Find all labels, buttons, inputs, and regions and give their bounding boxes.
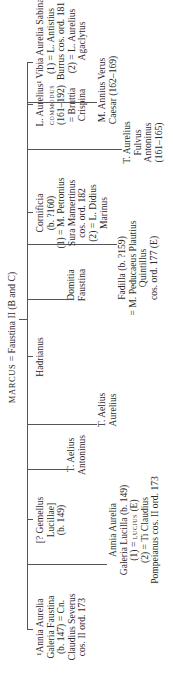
branch-line bbox=[27, 564, 107, 565]
child-gemellus: [? Gemellus Lucillae] (b. 149) bbox=[35, 490, 67, 550]
child-annia-faustina: ¹Annia Aurelia Galeria Faustina (b. 147)… bbox=[35, 592, 88, 662]
text-line: Antoninus bbox=[77, 430, 88, 480]
text-line: (2) = L. Didius bbox=[88, 173, 99, 253]
child-aelius-antoninus: T. Aelius Antoninus bbox=[66, 430, 87, 480]
text-line: T. Aurelius bbox=[122, 115, 133, 170]
child-cornificia: Cornificia (b. ?160) (1) = M. Petronius … bbox=[35, 173, 109, 253]
text-line: Galeria Lucilla (b. 149) bbox=[119, 470, 130, 590]
text-line: T. Aelius bbox=[97, 385, 108, 435]
child-aelius-aurelius: T. Aelius Aurelius bbox=[97, 385, 118, 435]
text-line: T. Aelius bbox=[66, 430, 77, 480]
father-name: MARCUS bbox=[7, 364, 17, 404]
branch-line bbox=[27, 102, 97, 103]
branch-line bbox=[27, 212, 33, 213]
text-line: Hadrianus bbox=[35, 332, 46, 382]
text-line: cos. ord. 177 (E) bbox=[149, 213, 160, 323]
text-line: ¹Annia Aurelia bbox=[35, 592, 46, 662]
text-line: Annia Aurelia bbox=[108, 470, 119, 590]
text-line: Marinus bbox=[99, 173, 110, 253]
child-annia-lucilla: Annia Aurelia Galeria Lucilla (b. 149) (… bbox=[108, 470, 161, 590]
child-hadrianus: Hadrianus bbox=[35, 332, 46, 382]
text-line: Faustina bbox=[77, 260, 88, 310]
branch-line bbox=[27, 149, 122, 150]
text-line: Caesar (162–169) bbox=[108, 50, 119, 130]
branch-line bbox=[27, 469, 67, 470]
branch-line bbox=[27, 62, 33, 63]
text-line: (b. 149) bbox=[56, 490, 67, 550]
child-vibia-sabina: ¹ Vibia Aurelia Sabina (1) = L. Antistiu… bbox=[35, 0, 88, 85]
branch-line bbox=[27, 519, 33, 520]
branch-line bbox=[27, 424, 97, 425]
family-tree-diagram: MARCUS = Faustina II (B and C) ¹Annia Au… bbox=[0, 0, 173, 675]
branch-line bbox=[27, 629, 33, 630]
text-line: Agaclytus bbox=[77, 0, 88, 85]
parent-drop-line bbox=[19, 319, 27, 320]
branch-line bbox=[27, 299, 67, 300]
text-line: Cornificia bbox=[35, 173, 46, 253]
text-line: Aurelius bbox=[108, 385, 119, 435]
mother-name: = Faustina II (B and C) bbox=[6, 272, 17, 364]
text-line: cos. II ord. 173 bbox=[77, 592, 88, 662]
text-line: ¹ Vibia Aurelia Sabina bbox=[35, 0, 46, 85]
child-domitia-faustina: Domitia Faustina bbox=[66, 260, 87, 310]
child-annius-verus: M. Annius Verus Caesar (162–169) bbox=[97, 50, 118, 130]
text-line: [? Gemellus bbox=[35, 490, 46, 550]
branch-line bbox=[27, 104, 33, 105]
text-line: Pompeianus cos. II ord. 173 bbox=[150, 470, 161, 590]
parents-header: MARCUS = Faustina II (B and C) bbox=[6, 0, 17, 675]
child-fadilla: Fadilla (b. ?159) = M. Peducaeus Plautiu… bbox=[117, 213, 159, 323]
text-line: M. Annius Verus bbox=[97, 50, 108, 130]
text-line: Domitia bbox=[66, 260, 77, 310]
branch-line bbox=[27, 356, 33, 357]
child-aurelius-fulvus: T. Aurelius Fulvus Antoninus (161–165) bbox=[122, 115, 164, 170]
sibling-line bbox=[27, 62, 28, 630]
text-line: (161–165) bbox=[154, 115, 165, 170]
text-line: Fadilla (b. ?159) bbox=[117, 213, 128, 323]
